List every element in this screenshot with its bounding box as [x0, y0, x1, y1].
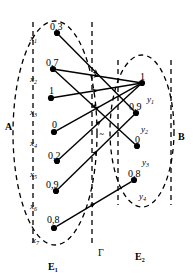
membership-value-x5: 0,2 [48, 151, 61, 161]
membership-value-y1: 1 [140, 72, 145, 82]
set-b-label: B [178, 132, 193, 142]
node-label-x1: x1 [30, 34, 37, 44]
membership-value-x6: 0,9 [46, 180, 59, 190]
relation-gamma-label: Γ [98, 248, 104, 258]
node-label-subscript-x1: 1 [34, 38, 37, 44]
node-label-subscript-x3: 3 [34, 112, 37, 118]
region-e2-subscript: 2 [142, 257, 145, 263]
node-label-y4: y4 [139, 192, 146, 202]
node-label-subscript-x4: 4 [34, 143, 37, 149]
membership-value-x3: 1 [49, 86, 54, 96]
node-dot-x7 [51, 225, 57, 231]
membership-value-x7: 0,8 [47, 215, 60, 225]
node-label-x2: x2 [30, 75, 37, 85]
node-label-subscript-x6: 6 [34, 206, 37, 212]
node-label-subscript-x5: 5 [34, 174, 37, 180]
node-label-subscript-y4: 4 [143, 196, 146, 202]
node-label-x7: x7 [32, 236, 39, 246]
region-e1-subscript: 1 [55, 267, 58, 273]
membership-value-y4: 0,8 [128, 169, 141, 179]
membership-value-x1: 0,3 [50, 22, 63, 32]
region-e1-base: E [48, 261, 55, 272]
node-label-x5: x5 [30, 170, 37, 180]
region-e2-label: E2 [135, 252, 145, 263]
node-label-x6: x6 [30, 202, 37, 212]
node-label-subscript-x2: 2 [34, 79, 37, 85]
region-e1-label: E1 [48, 262, 58, 273]
node-label-subscript-y1: 1 [151, 99, 154, 105]
node-label-x3: x3 [30, 108, 37, 118]
region-e2-base: E [135, 251, 142, 262]
membership-value-x2: 0,7 [46, 58, 59, 68]
diagram-graphics [0, 0, 193, 279]
node-label-subscript-x7: 7 [36, 240, 39, 246]
node-label-y3: y3 [142, 158, 149, 168]
arrowhead-x7-y4 [90, 201, 97, 208]
diagram-canvas: 0,3x10,7x21x30x40,2x50,9x60,8x7 1y10,9y2… [0, 0, 193, 279]
membership-value-y2: 0,9 [129, 102, 142, 112]
node-label-subscript-y3: 3 [146, 162, 149, 168]
node-label-x4: x4 [30, 139, 37, 149]
set-a-label: A [5, 122, 193, 132]
node-label-y1: y1 [147, 95, 154, 105]
